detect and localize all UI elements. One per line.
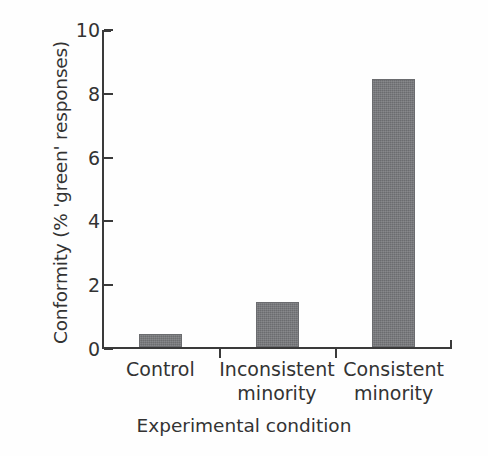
category-label: Consistentminority (335, 357, 452, 405)
x-axis-line (102, 347, 452, 349)
category-label: Inconsistentminority (219, 357, 336, 405)
y-axis-tick (104, 284, 113, 286)
y-axis-tick-label: 8 (60, 83, 100, 105)
y-axis-tick-label: 6 (60, 147, 100, 169)
y-axis-tick (104, 93, 113, 95)
x-axis-end-cap (450, 340, 452, 349)
y-axis-tick (104, 29, 113, 31)
category-label: Control (102, 357, 219, 381)
y-axis-tick (104, 348, 113, 350)
y-axis-tick (104, 157, 113, 159)
y-axis-tick-label: 0 (60, 338, 100, 360)
category-label-line1: Inconsistent (219, 358, 334, 380)
category-label-line2: minority (219, 381, 336, 405)
y-axis-title: Conformity (% 'green' responses) (50, 28, 71, 358)
bar (139, 334, 182, 347)
y-axis-tick (104, 220, 113, 222)
y-axis-line (102, 30, 104, 349)
bar (372, 79, 415, 347)
category-label-line1: Consistent (343, 358, 444, 380)
bar-chart-figure: Conformity (% 'green' responses) 0246810… (0, 0, 488, 456)
plot-area: 0246810 (102, 30, 452, 349)
y-axis-tick-label: 4 (60, 210, 100, 232)
category-label-line1: Control (126, 358, 195, 380)
bar (256, 302, 299, 347)
y-axis-tick-label: 2 (60, 274, 100, 296)
x-axis-title: Experimental condition (0, 415, 488, 436)
category-label-line2: minority (335, 381, 452, 405)
y-axis-tick-label: 10 (60, 19, 100, 41)
